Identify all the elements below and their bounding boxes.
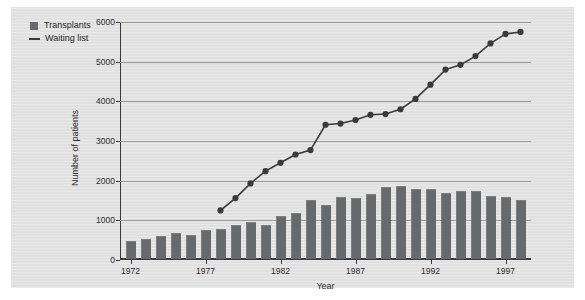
data-point-marker bbox=[262, 168, 268, 174]
data-point-marker bbox=[307, 147, 313, 153]
data-point-marker bbox=[517, 29, 523, 35]
chart-figure: Number of patients 010002000300040005000… bbox=[11, 7, 574, 288]
x-tick-label: 1982 bbox=[271, 266, 290, 276]
legend-item-transplants: Transplants bbox=[30, 19, 91, 32]
waiting-list-markers bbox=[217, 29, 523, 214]
legend-item-waiting-list: Waiting list bbox=[30, 32, 91, 45]
square-swatch-icon bbox=[30, 22, 38, 30]
data-point-marker bbox=[247, 180, 253, 186]
data-point-marker bbox=[217, 207, 223, 213]
legend-label-transplants: Transplants bbox=[44, 19, 91, 32]
data-point-marker bbox=[472, 53, 478, 59]
data-point-marker bbox=[487, 40, 493, 46]
data-point-marker bbox=[382, 111, 388, 117]
y-tick-mark bbox=[116, 260, 120, 261]
legend-label-waiting-list: Waiting list bbox=[45, 32, 88, 45]
y-tick-label: 6000 bbox=[96, 17, 115, 27]
y-axis-title: Number of patients bbox=[70, 109, 80, 185]
y-tick-label: 4000 bbox=[96, 96, 115, 106]
line-series-waiting-list bbox=[120, 22, 531, 260]
y-tick-label: 1000 bbox=[96, 215, 115, 225]
data-point-marker bbox=[442, 67, 448, 73]
x-tick-label: 1992 bbox=[421, 266, 440, 276]
x-tick-label: 1997 bbox=[496, 266, 515, 276]
y-tick-label: 2000 bbox=[96, 176, 115, 186]
chart-legend: Transplants Waiting list bbox=[30, 19, 91, 45]
y-tick-label: 3000 bbox=[96, 136, 115, 146]
y-tick-label: 0 bbox=[110, 255, 115, 265]
line-swatch-icon bbox=[29, 38, 40, 40]
x-tick-label: 1987 bbox=[346, 266, 365, 276]
data-point-marker bbox=[352, 117, 358, 123]
data-point-marker bbox=[397, 106, 403, 112]
data-point-marker bbox=[232, 195, 238, 201]
data-point-marker bbox=[337, 120, 343, 126]
data-point-marker bbox=[412, 96, 418, 102]
data-point-marker bbox=[322, 122, 328, 128]
data-point-marker bbox=[502, 31, 508, 37]
data-point-marker bbox=[277, 160, 283, 166]
plot-area: 0100020003000400050006000 19721977198219… bbox=[120, 22, 531, 260]
x-axis-title: Year bbox=[120, 281, 531, 291]
y-tick-label: 5000 bbox=[96, 57, 115, 67]
data-point-marker bbox=[457, 62, 463, 68]
x-tick-label: 1977 bbox=[196, 266, 215, 276]
x-tick-label: 1972 bbox=[121, 266, 140, 276]
data-point-marker bbox=[427, 82, 433, 88]
data-point-marker bbox=[292, 151, 298, 157]
data-point-marker bbox=[367, 112, 373, 118]
